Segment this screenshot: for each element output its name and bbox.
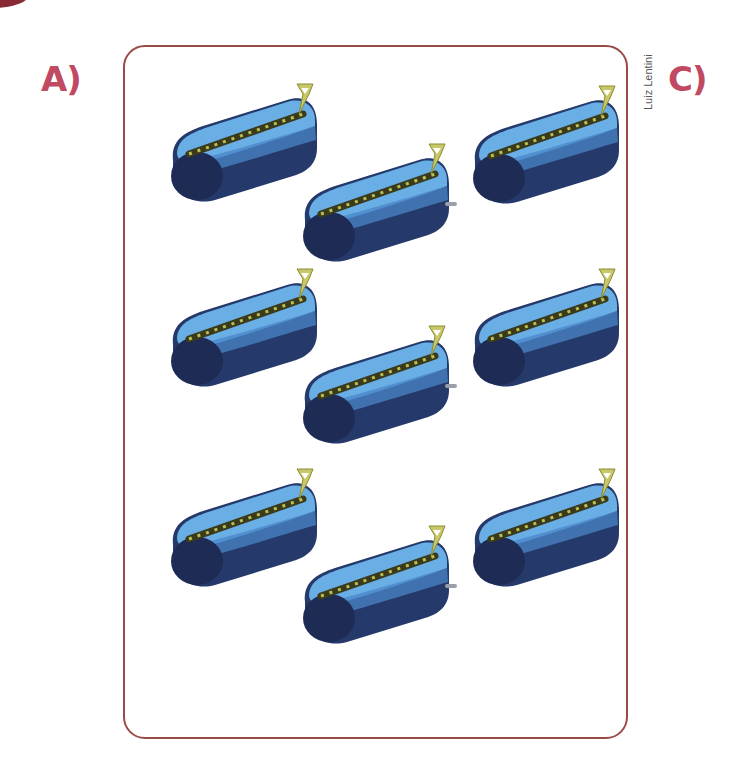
pencil-case-middle-1 <box>287 140 457 270</box>
pencil-case-middle-3 <box>287 522 457 652</box>
option-label-c: C) <box>668 62 707 96</box>
option-label-a: A) <box>41 62 81 96</box>
pencil-case-right-2 <box>457 265 627 395</box>
illustrator-credit: Luiz Lentini <box>642 54 654 110</box>
pencil-case-right-1 <box>457 82 627 212</box>
pencil-case-middle-2 <box>287 322 457 452</box>
decorative-corner-shape <box>0 0 30 8</box>
pencil-case-right-3 <box>457 465 627 595</box>
